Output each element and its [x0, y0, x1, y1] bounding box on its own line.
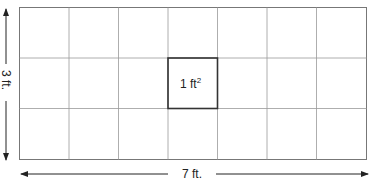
height-label: 3 ft.: [0, 70, 13, 90]
width-dimension: 7 ft.: [21, 167, 368, 181]
width-label: 7 ft.: [182, 167, 202, 181]
grid: 1 ft2: [20, 8, 367, 160]
area-grid-diagram: 1 ft2 3 ft. 7 ft.: [0, 0, 371, 185]
height-dimension: 3 ft.: [0, 9, 13, 160]
